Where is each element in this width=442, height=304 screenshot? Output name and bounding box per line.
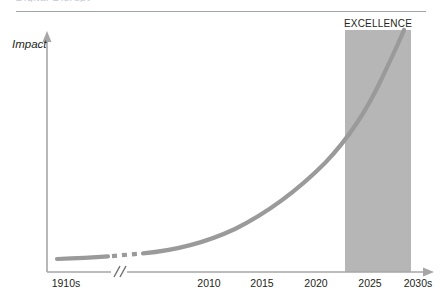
x-axis-arrowhead bbox=[423, 268, 434, 277]
impact-curve-early-segment bbox=[57, 256, 108, 259]
x-tick-label-2010: 2010 bbox=[197, 277, 220, 289]
impact-curve-plot bbox=[0, 0, 442, 304]
x-tick-label-2030s: 2030s bbox=[404, 277, 433, 289]
y-axis-title: Impact bbox=[12, 38, 47, 50]
x-tick-label-2020: 2020 bbox=[304, 277, 327, 289]
chart-figure: Digital Disrupt Impact EXCELLENCE 1910s … bbox=[0, 0, 442, 304]
axis-break-slash-1 bbox=[114, 266, 120, 277]
excellence-zone-label: EXCELLENCE bbox=[344, 18, 412, 29]
x-tick-label-2025: 2025 bbox=[358, 277, 381, 289]
x-tick-label-2015: 2015 bbox=[250, 277, 273, 289]
axis-break-slash-2 bbox=[120, 266, 126, 277]
impact-curve-dashed-segment bbox=[112, 254, 140, 257]
x-tick-label-1910s: 1910s bbox=[52, 277, 81, 289]
excellence-zone-rect bbox=[345, 30, 411, 272]
